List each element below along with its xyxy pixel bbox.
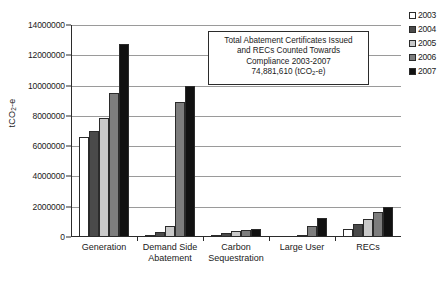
- legend-item-2005[interactable]: 2005: [409, 36, 448, 50]
- legend-swatch-icon: [409, 26, 416, 33]
- bar-chart: tCO2-e 140000001200000010000000800000060…: [0, 0, 448, 281]
- x-axis-tick-mark: [335, 237, 336, 241]
- bar-2007: [317, 218, 327, 237]
- y-axis-tick-label: 4000000: [33, 171, 65, 181]
- annotation-box: Total Abatement Certificates Issued and …: [208, 31, 369, 85]
- bar-2006: [241, 230, 251, 237]
- y-axis: 1400000012000000100000008000000600000040…: [0, 0, 71, 281]
- legend-label: 2004: [418, 24, 436, 34]
- bar-2005: [297, 235, 307, 237]
- bar-2003: [145, 235, 155, 237]
- bar-2007: [185, 86, 195, 237]
- x-axis-label: Demand Side Abatement: [137, 242, 203, 263]
- x-axis-tick-mark: [203, 237, 204, 241]
- bar-2005: [363, 219, 373, 237]
- bar-2007: [251, 229, 261, 237]
- legend-label: 2006: [418, 52, 436, 62]
- annotation-line-3: Compliance 2003-2007: [214, 57, 363, 67]
- legend-item-2003[interactable]: 2003: [409, 8, 448, 22]
- legend-swatch-icon: [409, 54, 416, 61]
- bar-2003: [343, 229, 353, 237]
- y-axis-tick-label: 8000000: [33, 111, 65, 121]
- legend-item-2007[interactable]: 2007: [409, 64, 448, 78]
- bar-2004: [89, 131, 99, 237]
- annotation-line-4: 74,881,610 (tCO2-e): [214, 67, 363, 78]
- bar-group: [137, 25, 203, 237]
- x-axis-tick-mark: [269, 237, 270, 241]
- bar-2004: [155, 232, 165, 237]
- bar-2006: [109, 93, 119, 237]
- legend-item-2006[interactable]: 2006: [409, 50, 448, 64]
- legend-label: 2007: [418, 66, 436, 76]
- x-axis-label: Large User: [269, 242, 335, 253]
- bar-2005: [231, 231, 241, 237]
- bar-2003: [211, 235, 221, 237]
- bar-2007: [383, 207, 393, 237]
- bar-2006: [373, 212, 383, 237]
- bar-2005: [99, 118, 109, 237]
- y-axis-tick-label: 2000000: [33, 202, 65, 212]
- bar-2004: [221, 233, 231, 237]
- x-axis-label: Generation: [71, 242, 137, 253]
- bar-2007: [119, 44, 129, 237]
- bar-2005: [165, 226, 175, 237]
- y-axis-tick-label: 14000000: [28, 20, 65, 30]
- x-axis-label: Carbon Sequestration: [203, 242, 269, 263]
- bar-2006: [175, 102, 185, 237]
- x-axis-tick-mark: [137, 237, 138, 241]
- bar-2003: [79, 137, 89, 237]
- legend: 20032004200520062007: [409, 8, 448, 78]
- x-axis-label: RECs: [335, 242, 401, 253]
- bar-2004: [353, 224, 363, 237]
- y-axis-tick-label: 6000000: [33, 141, 65, 151]
- annotation-line-1: Total Abatement Certificates Issued: [214, 36, 363, 46]
- legend-item-2004[interactable]: 2004: [409, 22, 448, 36]
- legend-label: 2005: [418, 38, 436, 48]
- legend-swatch-icon: [409, 40, 416, 47]
- bar-2006: [307, 226, 317, 237]
- legend-swatch-icon: [409, 12, 416, 19]
- legend-swatch-icon: [409, 68, 416, 75]
- annotation-total-value: 74,881,610 (tCO: [252, 67, 313, 76]
- bar-group: [71, 25, 137, 237]
- legend-label: 2003: [418, 10, 436, 20]
- y-axis-tick-label: 0: [60, 232, 65, 242]
- annotation-unit-suffix: -e): [315, 67, 325, 76]
- annotation-line-2: and RECs Counted Towards: [214, 46, 363, 56]
- y-axis-tick-label: 12000000: [28, 50, 65, 60]
- y-axis-tick-label: 10000000: [28, 81, 65, 91]
